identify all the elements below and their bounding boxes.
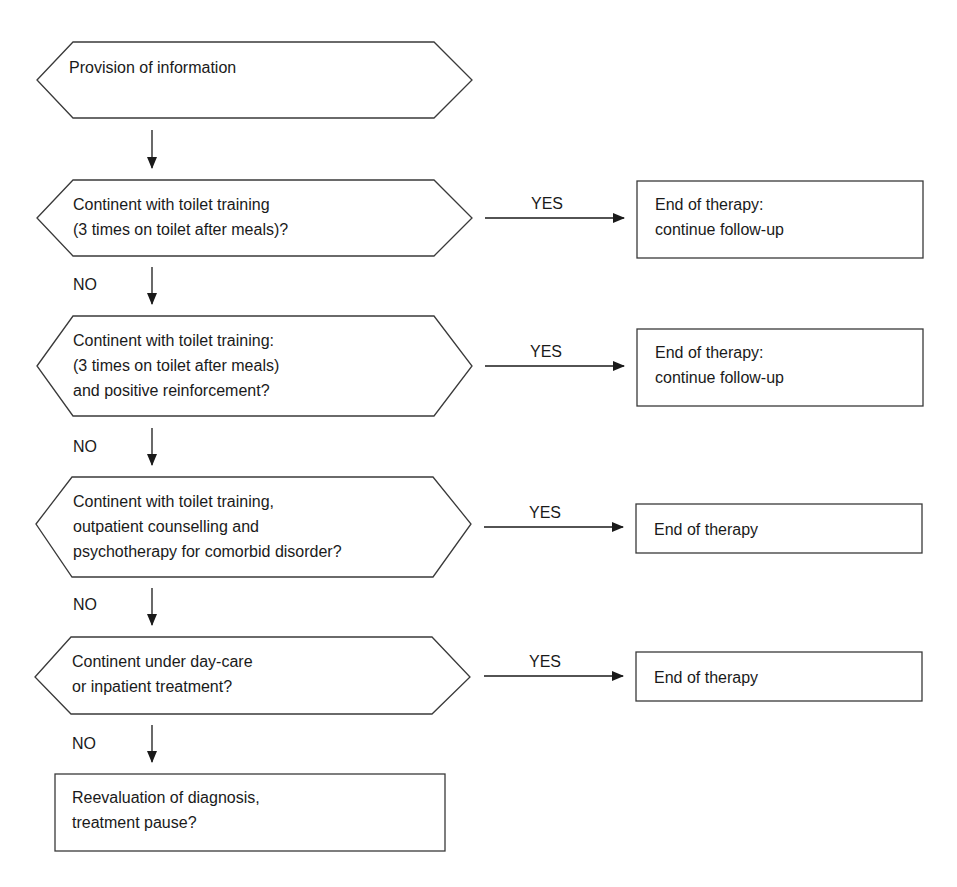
decision-3-line-3: psychotherapy for comorbid disorder? (73, 539, 342, 564)
yes-label-3: YES (529, 500, 561, 525)
decision-3-line-2: outpatient counselling and (73, 514, 259, 539)
final-node-line-1: Reevaluation of diagnosis, (72, 785, 260, 810)
outcome-1-line-1: End of therapy: (655, 192, 764, 217)
outcome-1-line-2: continue follow-up (655, 217, 784, 242)
no-label-1: NO (73, 272, 97, 297)
decision-1-line-1: Continent with toilet training (73, 192, 270, 217)
final-node-line-2: treatment pause? (72, 810, 197, 835)
decision-2-line-3: and positive reinforcement? (73, 378, 270, 403)
outcome-3-line-1: End of therapy (654, 517, 758, 542)
decision-4-line-2: or inpatient treatment? (72, 674, 232, 699)
yes-label-4: YES (529, 649, 561, 674)
start-node-shape (37, 42, 472, 118)
yes-label-1: YES (531, 191, 563, 216)
no-label-3: NO (73, 592, 97, 617)
decision-2-line-1: Continent with toilet training: (73, 328, 274, 353)
decision-3-line-1: Continent with toilet training, (73, 489, 274, 514)
decision-2-line-2: (3 times on toilet after meals) (73, 353, 279, 378)
decision-1-line-2: (3 times on toilet after meals)? (73, 217, 288, 242)
no-label-2: NO (73, 434, 97, 459)
start-node-label: Provision of information (69, 55, 236, 80)
decision-4-line-1: Continent under day-care (72, 649, 253, 674)
outcome-2-line-2: continue follow-up (655, 365, 784, 390)
outcome-2-line-1: End of therapy: (655, 340, 764, 365)
flowchart-canvas (0, 0, 957, 887)
outcome-4-line-1: End of therapy (654, 665, 758, 690)
no-label-4: NO (72, 731, 96, 756)
yes-label-2: YES (530, 339, 562, 364)
